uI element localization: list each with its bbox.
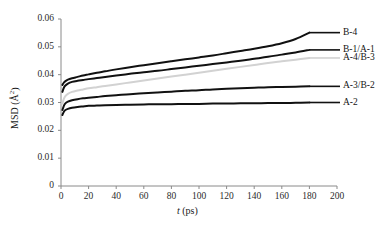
x-axis-title-unit: (ps) [180, 205, 198, 216]
series-line-a-2 [62, 103, 309, 116]
x-axis-tick-label: 200 [317, 192, 357, 202]
series-label-a-4-b-3: A-4/B-3 [343, 53, 375, 63]
y-axis-title-close: ) [9, 87, 20, 90]
y-axis-tick-label: 0.06 [12, 14, 54, 24]
y-axis-tick-label: 0.04 [12, 70, 54, 80]
x-axis-title: t (ps) [177, 206, 198, 216]
series-label-a-3-b-2: A-3/B-2 [343, 81, 375, 91]
chart-figure: 00.010.020.030.040.050.06 02040608010012… [0, 0, 386, 225]
y-axis-tick-label: 0.01 [12, 153, 54, 163]
series-line-b-1-a-1 [62, 50, 309, 92]
series-label-a-2: A-2 [343, 98, 358, 108]
y-axis-tick-label: 0.05 [12, 42, 54, 52]
y-axis-tick-label: 0 [12, 181, 54, 191]
y-axis-title-main: MSD (Å [9, 94, 20, 129]
series-leader-lines [309, 33, 340, 103]
series-paths [62, 33, 309, 115]
y-axis-title: MSD (Å2) [10, 87, 20, 128]
series-label-b-4: B-4 [343, 28, 357, 38]
